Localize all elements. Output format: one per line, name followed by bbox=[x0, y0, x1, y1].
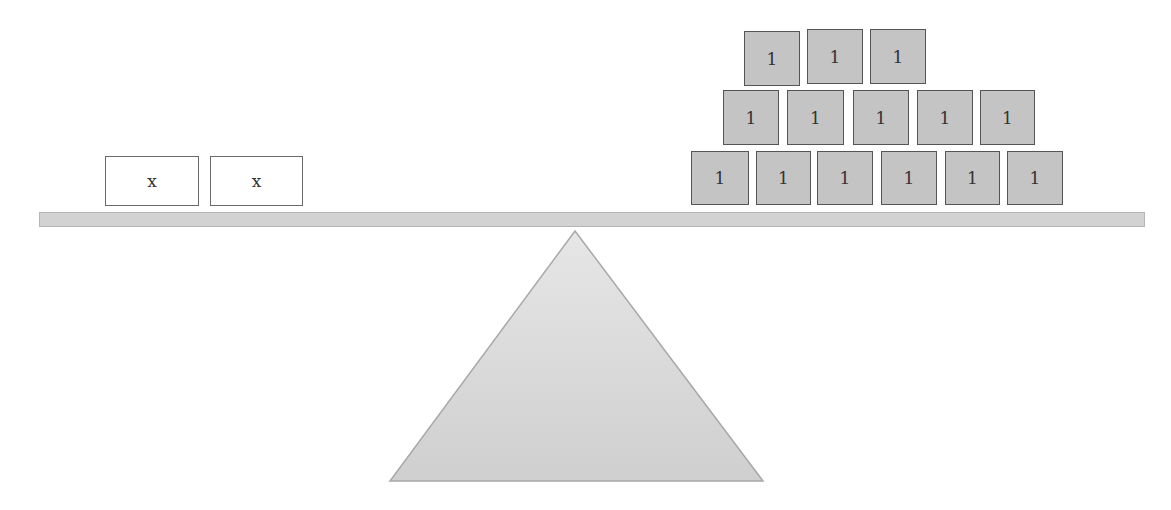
balance-beam bbox=[39, 212, 1145, 227]
x-block: x bbox=[105, 156, 199, 206]
block-label: 1 bbox=[876, 108, 887, 128]
fulcrum-triangle bbox=[388, 229, 768, 484]
unit-block: 1 bbox=[817, 151, 873, 205]
block-label: 1 bbox=[1002, 108, 1013, 128]
block-label: 1 bbox=[840, 168, 851, 188]
block-label: 1 bbox=[940, 108, 951, 128]
block-label: 1 bbox=[810, 108, 821, 128]
unit-block: 1 bbox=[756, 151, 811, 205]
unit-block: 1 bbox=[787, 90, 844, 145]
x-block: x bbox=[210, 156, 303, 206]
unit-block: 1 bbox=[1007, 151, 1063, 205]
unit-block: 1 bbox=[807, 29, 863, 84]
block-label: 1 bbox=[893, 47, 904, 67]
unit-block: 1 bbox=[723, 90, 779, 145]
block-label: 1 bbox=[746, 108, 757, 128]
unit-block: 1 bbox=[980, 90, 1035, 145]
block-label: 1 bbox=[830, 47, 841, 67]
unit-block: 1 bbox=[744, 31, 800, 86]
block-label: 1 bbox=[715, 168, 726, 188]
unit-block: 1 bbox=[881, 151, 937, 205]
unit-block: 1 bbox=[870, 29, 926, 84]
unit-block: 1 bbox=[691, 151, 749, 205]
block-label: x bbox=[252, 171, 262, 191]
block-label: 1 bbox=[767, 49, 778, 69]
block-label: 1 bbox=[967, 168, 978, 188]
unit-block: 1 bbox=[917, 90, 973, 145]
unit-block: 1 bbox=[853, 90, 909, 145]
block-label: x bbox=[147, 171, 157, 191]
block-label: 1 bbox=[904, 168, 915, 188]
block-label: 1 bbox=[778, 168, 789, 188]
unit-block: 1 bbox=[945, 151, 1000, 205]
block-label: 1 bbox=[1030, 168, 1041, 188]
